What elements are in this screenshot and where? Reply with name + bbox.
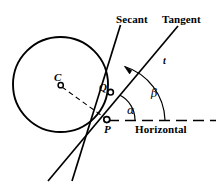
point-Q-label: Q <box>99 82 107 93</box>
point-P-marker <box>104 117 110 123</box>
point-C-marker <box>58 83 63 88</box>
point-C-label: C <box>54 72 61 83</box>
point-P-label: P <box>104 124 111 135</box>
alpha-angle-label: α <box>127 105 134 116</box>
beta-angle-label: β <box>151 88 157 99</box>
horizontal-label: Horizontal <box>135 124 187 135</box>
secant-label: Secant <box>116 14 148 25</box>
tangent-label: Tangent <box>162 14 201 25</box>
point-Q-marker <box>108 89 114 95</box>
tangent-symbol-label: t <box>163 56 166 66</box>
figure-canvas <box>0 0 219 189</box>
geometry-figure: Secant Tangent Horizontal C Q P t α β <box>0 0 219 189</box>
